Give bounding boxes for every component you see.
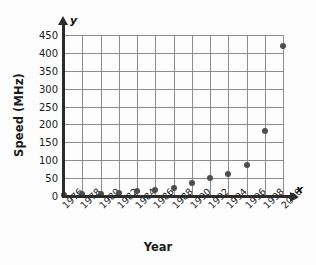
y-axis-line — [62, 24, 65, 198]
gridline-vertical — [247, 35, 248, 196]
x-axis-letter: x — [296, 183, 303, 196]
gridline-vertical — [192, 35, 193, 196]
data-point — [134, 188, 140, 194]
data-point — [244, 162, 250, 168]
gridline-vertical — [119, 35, 120, 196]
data-point — [207, 175, 213, 181]
chart-figure: Speed (MHz) Year 05010015020025030035040… — [0, 0, 316, 265]
gridline-vertical — [137, 35, 138, 196]
data-point — [171, 185, 177, 191]
gridline-vertical — [174, 35, 175, 196]
data-point — [225, 171, 231, 177]
data-point — [262, 128, 268, 134]
y-axis-letter: y — [70, 14, 77, 27]
gridline-vertical — [82, 35, 83, 196]
gridline-vertical — [210, 35, 211, 196]
y-axis-arrow-icon — [58, 16, 68, 25]
gridline-vertical — [101, 35, 102, 196]
plot-area — [64, 35, 283, 196]
data-point — [152, 187, 158, 193]
data-point — [280, 43, 286, 49]
gridline-vertical — [265, 35, 266, 196]
data-point — [189, 180, 195, 186]
x-axis-line — [62, 195, 291, 198]
gridline-vertical — [155, 35, 156, 196]
gridline-vertical — [283, 35, 284, 196]
